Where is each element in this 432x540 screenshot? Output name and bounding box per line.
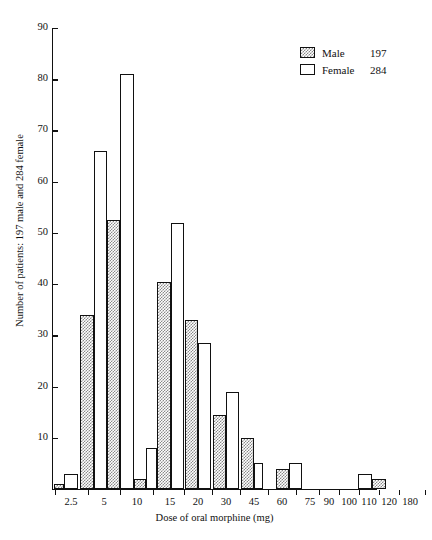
bar-female xyxy=(94,151,107,489)
x-tick-label: 2.5 xyxy=(64,496,77,507)
bars-group xyxy=(52,28,377,489)
x-tick-mark xyxy=(379,490,380,495)
histogram-figure: 102030405060708090 Dose of oral morphine… xyxy=(0,0,432,540)
stipple-swatch-icon xyxy=(300,47,315,58)
x-tick-label: 120 xyxy=(381,496,397,507)
x-tick-label: 180 xyxy=(402,496,418,507)
x-tick-label: 5 xyxy=(101,496,106,507)
y-tick-mark xyxy=(53,130,58,131)
bar-male xyxy=(185,320,198,489)
x-tick-label: 45 xyxy=(249,496,260,507)
x-tick-mark xyxy=(296,490,297,495)
y-tick-mark xyxy=(53,335,58,336)
x-tick-mark xyxy=(184,490,185,495)
x-tick-label: 90 xyxy=(324,496,335,507)
x-tick-label: 75 xyxy=(305,496,316,507)
y-tick-label: 20 xyxy=(10,381,48,391)
x-tick-mark xyxy=(120,490,121,495)
bar-female xyxy=(289,463,302,489)
y-tick-mark xyxy=(53,284,58,285)
x-tick-label: 110 xyxy=(361,496,376,507)
bar-female xyxy=(146,448,157,489)
legend-value-male: 197 xyxy=(370,45,387,61)
bar-female xyxy=(198,343,211,489)
bar-female xyxy=(171,223,184,489)
x-tick-label: 20 xyxy=(193,496,204,507)
y-tick-mark xyxy=(53,79,58,80)
bar-female xyxy=(358,474,372,489)
x-tick-mark xyxy=(319,490,320,495)
y-tick-mark xyxy=(53,182,58,183)
bar-male xyxy=(54,484,64,489)
legend: Male 197 Female 284 xyxy=(300,44,387,78)
y-tick-mark xyxy=(53,28,58,29)
legend-item-female: Female 284 xyxy=(300,61,387,78)
y-tick-mark xyxy=(53,387,58,388)
y-axis-tick-labels: 102030405060708090 xyxy=(6,0,48,540)
y-tick-mark xyxy=(53,233,58,234)
x-tick-mark xyxy=(425,490,426,495)
y-tick-label: 80 xyxy=(10,73,48,83)
x-tick-label: 30 xyxy=(221,496,232,507)
x-tick-mark xyxy=(359,490,360,495)
x-tick-mark xyxy=(268,490,269,495)
x-tick-label: 10 xyxy=(132,496,143,507)
y-tick-label: 10 xyxy=(10,432,48,442)
bar-female xyxy=(254,463,263,489)
x-axis-line xyxy=(52,489,377,490)
x-tick-label: 15 xyxy=(165,496,176,507)
x-tick-mark xyxy=(55,490,56,495)
y-tick-label: 90 xyxy=(10,22,48,32)
x-tick-mark xyxy=(399,490,400,495)
legend-label-male: Male xyxy=(322,45,370,61)
bar-male xyxy=(372,479,386,489)
bar-male xyxy=(157,282,171,489)
legend-item-male: Male 197 xyxy=(300,44,387,61)
y-tick-mark xyxy=(53,438,58,439)
x-tick-mark xyxy=(153,490,154,495)
bar-female xyxy=(64,474,78,489)
bar-male xyxy=(276,469,289,489)
x-tick-label: 100 xyxy=(341,496,357,507)
x-tick-mark xyxy=(212,490,213,495)
legend-label-female: Female xyxy=(322,62,370,78)
bar-female xyxy=(226,392,239,489)
bar-male xyxy=(213,415,226,489)
bar-male xyxy=(80,315,94,489)
white-swatch-icon xyxy=(300,64,315,75)
x-tick-mark xyxy=(240,490,241,495)
x-tick-mark xyxy=(339,490,340,495)
x-tick-mark xyxy=(88,490,89,495)
bar-male xyxy=(134,479,146,489)
x-tick-label: 60 xyxy=(277,496,288,507)
bar-male xyxy=(107,220,120,489)
bar-female xyxy=(120,74,134,489)
bar-male xyxy=(241,438,254,489)
y-axis-title: Number of patients: 197 male and 284 fem… xyxy=(14,111,25,351)
x-axis-title: Dose of oral morphine (mg) xyxy=(52,512,377,523)
legend-value-female: 284 xyxy=(370,62,387,78)
